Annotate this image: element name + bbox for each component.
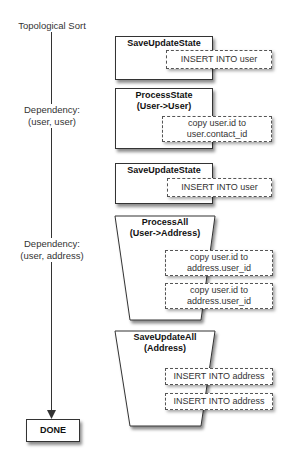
action-text: INSERT INTO address [173, 371, 264, 382]
action-insert-user-2: INSERT INTO user [167, 178, 272, 197]
action-copy-user-contact: copy user.id to user.contact_id [162, 116, 272, 142]
action-copy-user-address-2: copy user.id to address.user_id [165, 283, 273, 309]
step-title: ProcessState (User->User) [116, 90, 212, 112]
action-text-line1: copy user.id to [188, 118, 246, 129]
action-text: INSERT INTO user [181, 54, 258, 65]
topological-sort-label: Topological Sort [8, 20, 96, 32]
timeline-line [51, 30, 52, 413]
step-title: SaveUpdateState [116, 38, 212, 49]
action-text-line1: copy user.id to [190, 252, 248, 263]
action-insert-user-1: INSERT INTO user [166, 50, 272, 69]
action-text: INSERT INTO address [173, 396, 264, 407]
action-text-line1: copy user.id to [190, 285, 248, 296]
step-title-line2: (User->Address) [115, 228, 215, 239]
action-insert-address-2: INSERT INTO address [165, 393, 273, 410]
step-save-update-all: SaveUpdateAll (Address) [115, 332, 215, 354]
step-process-all: ProcessAll (User->Address) [115, 217, 215, 239]
action-text-line2: address.user_id [187, 296, 251, 307]
arrow-down-icon [47, 410, 56, 419]
step-title-line2: (Address) [115, 343, 215, 354]
action-text-line2: user.contact_id [187, 129, 248, 140]
action-copy-user-address-1: copy user.id to address.user_id [165, 250, 273, 276]
step-title: SaveUpdateState [116, 165, 212, 176]
step-title-line1: SaveUpdateAll [115, 332, 215, 343]
dependency-line1: Dependency: [8, 104, 96, 116]
dependency-line2: (user, user) [8, 116, 96, 128]
step-title-line1: ProcessState [116, 90, 212, 101]
step-title-line1: ProcessAll [115, 217, 215, 228]
done-box: DONE [26, 419, 80, 442]
dependency-user-user-label: Dependency: (user, user) [8, 104, 96, 128]
action-insert-address-1: INSERT INTO address [165, 368, 273, 385]
action-text: INSERT INTO user [181, 182, 258, 193]
dependency-line1: Dependency: [2, 238, 102, 250]
dependency-line2: (user, address) [2, 250, 102, 262]
action-text-line2: address.user_id [187, 263, 251, 274]
dependency-user-address-label: Dependency: (user, address) [2, 238, 102, 262]
step-title-line2: (User->User) [116, 101, 212, 112]
